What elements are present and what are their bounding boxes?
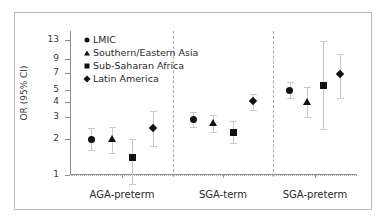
y-tick-mark bbox=[65, 117, 70, 118]
legend-item-diamond[interactable]: Latin America bbox=[81, 72, 198, 85]
legend-triangle-icon bbox=[81, 46, 93, 59]
error-bar-cap bbox=[150, 146, 157, 147]
circle-marker bbox=[286, 87, 293, 94]
legend-item-triangle[interactable]: Southern/Eastern Asia bbox=[81, 46, 198, 59]
triangle-marker bbox=[84, 50, 90, 55]
y-tick-mark bbox=[65, 139, 70, 140]
diamond-marker bbox=[249, 97, 257, 105]
square-marker bbox=[85, 63, 90, 68]
diamond-marker bbox=[336, 70, 344, 78]
y-axis-line bbox=[70, 31, 71, 175]
plot-area: OR (95% CI) 123457913 AGA-pretermSGA-ter… bbox=[15, 13, 373, 211]
group-tick-mark bbox=[315, 174, 316, 178]
error-bar-cap bbox=[210, 115, 217, 116]
error-bar-cap bbox=[88, 150, 95, 151]
y-tick-label: 4 bbox=[43, 97, 59, 106]
error-bar-cap bbox=[150, 111, 157, 112]
diamond-marker bbox=[148, 124, 156, 132]
error-bar-cap bbox=[230, 143, 237, 144]
legend-label: Sub-Saharan Africa bbox=[93, 59, 184, 72]
error-bar-cap bbox=[129, 139, 136, 140]
error-bar-cap bbox=[337, 98, 344, 99]
error-bar-cap bbox=[190, 127, 197, 128]
error-bar-cap bbox=[320, 41, 327, 42]
group-label-sga-preterm: SGA-preterm bbox=[255, 189, 375, 200]
legend-diamond-icon bbox=[81, 72, 93, 85]
legend-label: Southern/Eastern Asia bbox=[93, 46, 198, 59]
triangle-marker bbox=[209, 119, 217, 126]
group-tick-mark bbox=[223, 174, 224, 178]
legend-circle-icon bbox=[81, 33, 93, 46]
y-tick-label: 7 bbox=[43, 68, 59, 77]
triangle-marker bbox=[303, 98, 311, 105]
error-bar-cap bbox=[190, 112, 197, 113]
y-tick-mark bbox=[65, 90, 70, 91]
triangle-marker bbox=[108, 135, 116, 142]
chart-legend: LMICSouthern/Eastern AsiaSub-Saharan Afr… bbox=[81, 33, 198, 85]
legend-item-square[interactable]: Sub-Saharan Africa bbox=[81, 59, 198, 72]
error-bar-cap bbox=[287, 98, 294, 99]
error-bar-cap bbox=[320, 129, 327, 130]
y-tick-label: 3 bbox=[43, 112, 59, 121]
y-tick-mark bbox=[65, 175, 70, 176]
circle-marker bbox=[85, 37, 90, 42]
error-bar-cap bbox=[337, 54, 344, 55]
error-bar-cap bbox=[250, 94, 257, 95]
legend-label: LMIC bbox=[93, 33, 116, 46]
error-bar-cap bbox=[109, 153, 116, 154]
square-marker bbox=[129, 154, 136, 161]
error-bar-cap bbox=[129, 184, 136, 185]
y-tick-label: 2 bbox=[43, 134, 59, 143]
legend-label: Latin America bbox=[93, 72, 159, 85]
error-bar-cap bbox=[304, 87, 311, 88]
error-bar-cap bbox=[230, 121, 237, 122]
error-bar-cap bbox=[287, 82, 294, 83]
figure-panel: OR (95% CI) 123457913 AGA-pretermSGA-ter… bbox=[14, 12, 372, 210]
error-bar-cap bbox=[109, 127, 116, 128]
circle-marker bbox=[190, 116, 197, 123]
legend-square-icon bbox=[81, 59, 93, 72]
y-tick-label: 13 bbox=[43, 35, 59, 44]
y-tick-label: 9 bbox=[43, 54, 59, 63]
y-tick-label: 1 bbox=[43, 170, 59, 179]
y-tick-mark bbox=[65, 40, 70, 41]
error-bar bbox=[132, 139, 133, 184]
square-marker bbox=[230, 129, 237, 136]
legend-item-circle[interactable]: LMIC bbox=[81, 33, 198, 46]
square-marker bbox=[320, 82, 327, 89]
circle-marker bbox=[88, 136, 95, 143]
y-tick-label: 5 bbox=[43, 85, 59, 94]
error-bar-cap bbox=[88, 128, 95, 129]
y-axis-label: OR (95% CI) bbox=[19, 48, 29, 138]
error-bar-cap bbox=[304, 117, 311, 118]
y-tick-mark bbox=[65, 73, 70, 74]
y-tick-mark bbox=[65, 102, 70, 103]
diamond-marker bbox=[83, 75, 90, 82]
group-tick-mark bbox=[122, 174, 123, 178]
error-bar-cap bbox=[250, 110, 257, 111]
error-bar-cap bbox=[210, 132, 217, 133]
group-separator bbox=[273, 31, 274, 177]
y-tick-mark bbox=[65, 59, 70, 60]
